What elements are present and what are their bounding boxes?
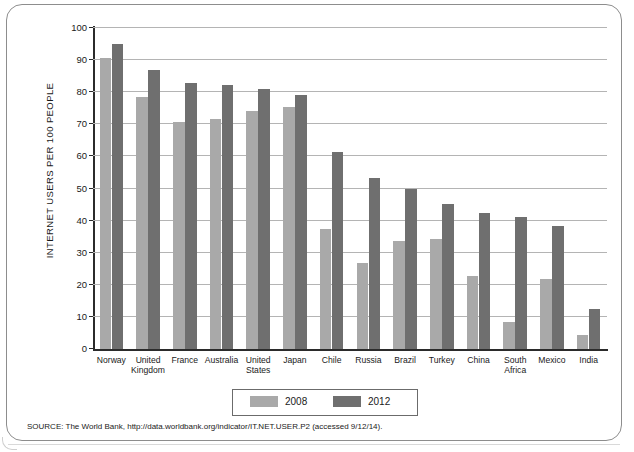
figure-frame: INTERNET USERS PER 100 PEOPLE 0102030405… [6, 4, 622, 441]
gridline-80: 80 [93, 91, 607, 92]
x-axis-label-south-africa: SouthAfrica [497, 355, 534, 375]
y-tick-mark-60 [89, 155, 93, 156]
gridline-60: 60 [93, 155, 607, 156]
bar-chile-2012 [332, 152, 344, 349]
bar-mexico-2012 [552, 226, 564, 349]
page-edge-line [8, 444, 620, 445]
bar-china-2012 [479, 213, 491, 349]
bar-south-africa-2012 [515, 217, 527, 349]
y-tick-mark-30 [89, 252, 93, 253]
legend-swatch-2012 [333, 396, 361, 407]
bar-india-2008 [577, 335, 589, 349]
gridline-100: 100 [93, 27, 607, 28]
y-tick-label-20: 20 [76, 278, 87, 289]
y-tick-label-0: 0 [82, 343, 87, 354]
bar-china-2008 [467, 276, 479, 349]
bar-japan-2012 [295, 95, 307, 349]
y-tick-label-60: 60 [76, 150, 87, 161]
x-axis-label-united-kingdom: UnitedKingdom [130, 355, 167, 375]
bar-japan-2008 [283, 107, 295, 349]
bar-brazil-2008 [393, 241, 405, 349]
x-axis-label-france: France [166, 355, 203, 365]
bar-india-2012 [589, 309, 601, 349]
gridline-0: 0 [93, 348, 607, 349]
bar-mexico-2008 [540, 279, 552, 349]
y-tick-mark-40 [89, 220, 93, 221]
bar-russia-2008 [357, 263, 369, 349]
bar-norway-2008 [100, 58, 112, 349]
gridline-20: 20 [93, 284, 607, 285]
legend-label-2008: 2008 [285, 396, 307, 407]
y-tick-label-30: 30 [76, 246, 87, 257]
legend-entry-2008: 2008 [250, 396, 307, 407]
gridline-50: 50 [93, 188, 607, 189]
x-axis-label-australia: Australia [203, 355, 240, 365]
bar-france-2012 [185, 83, 197, 349]
bar-chile-2008 [320, 229, 332, 349]
y-tick-mark-0 [89, 348, 93, 349]
y-tick-label-90: 90 [76, 54, 87, 65]
x-axis-label-russia: Russia [350, 355, 387, 365]
bar-united-kingdom-2012 [148, 70, 160, 349]
y-axis-title: INTERNET USERS PER 100 PEOPLE [44, 21, 55, 321]
y-tick-mark-70 [89, 123, 93, 124]
y-tick-label-80: 80 [76, 86, 87, 97]
x-axis-label-united-states: UnitedStates [240, 355, 277, 375]
x-axis-label-turkey: Turkey [423, 355, 460, 365]
y-tick-mark-10 [89, 316, 93, 317]
gridline-10: 10 [93, 316, 607, 317]
x-axis-label-india: India [570, 355, 607, 365]
y-tick-mark-50 [89, 188, 93, 189]
bar-south-africa-2008 [503, 322, 515, 349]
gridline-30: 30 [93, 252, 607, 253]
legend-label-2012: 2012 [368, 396, 390, 407]
y-tick-label-70: 70 [76, 118, 87, 129]
y-tick-label-50: 50 [76, 182, 87, 193]
x-axis-label-japan: Japan [277, 355, 314, 365]
gridline-40: 40 [93, 220, 607, 221]
chart-legend: 2008 2012 [232, 389, 418, 416]
x-axis-line [93, 349, 608, 351]
legend-swatch-2008 [250, 396, 278, 407]
bar-united-kingdom-2008 [136, 97, 148, 349]
y-tick-mark-100 [89, 27, 93, 28]
bar-russia-2012 [369, 178, 381, 349]
x-axis-label-chile: Chile [313, 355, 350, 365]
y-tick-label-10: 10 [76, 310, 87, 321]
bar-australia-2008 [210, 119, 222, 349]
plot-area: 0102030405060708090100 [93, 28, 607, 349]
bar-norway-2012 [112, 44, 124, 349]
gridline-70: 70 [93, 123, 607, 124]
bar-australia-2012 [222, 85, 234, 349]
y-tick-mark-80 [89, 91, 93, 92]
y-tick-label-40: 40 [76, 214, 87, 225]
y-tick-label-100: 100 [71, 22, 87, 33]
bar-turkey-2012 [442, 204, 454, 349]
source-note: SOURCE: The World Bank, http://data.worl… [27, 422, 382, 431]
bar-united-states-2012 [258, 89, 270, 349]
x-axis-label-china: China [460, 355, 497, 365]
page-corner-curl [2, 437, 17, 450]
bar-turkey-2008 [430, 239, 442, 349]
x-axis-label-brazil: Brazil [387, 355, 424, 365]
y-tick-mark-90 [89, 59, 93, 60]
bar-chart: INTERNET USERS PER 100 PEOPLE 0102030405… [7, 5, 623, 442]
x-axis-label-norway: Norway [93, 355, 130, 365]
legend-entry-2012: 2012 [333, 396, 390, 407]
x-axis-label-mexico: Mexico [534, 355, 571, 365]
y-tick-mark-20 [89, 284, 93, 285]
bar-united-states-2008 [246, 111, 258, 349]
bar-france-2008 [173, 122, 185, 349]
gridline-90: 90 [93, 59, 607, 60]
bar-brazil-2012 [405, 189, 417, 349]
